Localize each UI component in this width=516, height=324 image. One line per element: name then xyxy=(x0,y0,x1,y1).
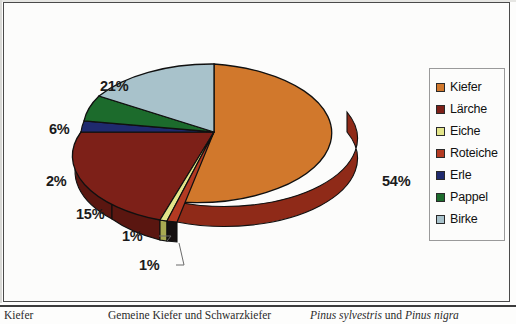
page-root: 54% 21% 6% 2% 15% 1% 1% Kiefer Lärche Ei… xyxy=(0,0,516,324)
pie-label-birke: 21% xyxy=(100,78,128,94)
legend-swatch-kiefer xyxy=(436,83,445,92)
legend-swatch-eiche xyxy=(436,127,445,136)
pie-label-erle: 2% xyxy=(46,173,67,189)
caption-row: Kiefer Gemeine Kiefer und Schwarzkiefer … xyxy=(0,309,516,324)
chart-frame: 54% 21% 6% 2% 15% 1% 1% Kiefer Lärche Ei… xyxy=(3,2,510,302)
pie-chart: 54% 21% 6% 2% 15% 1% 1% xyxy=(4,3,424,301)
caption-latin-a: Pinus sylvestris xyxy=(310,309,382,321)
legend-item-kiefer[interactable]: Kiefer xyxy=(436,76,500,98)
legend-label-laerche: Lärche xyxy=(450,102,487,116)
caption-latin-b: Pinus nigra xyxy=(405,309,459,321)
chart-legend: Kiefer Lärche Eiche Roteiche Erle Pappel xyxy=(429,68,505,241)
legend-swatch-erle xyxy=(436,171,445,180)
caption-species-name: Kiefer xyxy=(4,309,33,321)
caption-latin-name: Pinus sylvestris und Pinus nigra xyxy=(310,309,459,321)
legend-label-kiefer: Kiefer xyxy=(450,80,481,94)
pie-label-roteiche: 1% xyxy=(139,257,160,273)
leader-line-roteiche xyxy=(176,243,184,265)
pie-chart-svg xyxy=(4,3,424,301)
caption-divider xyxy=(0,305,516,307)
legend-label-eiche: Eiche xyxy=(450,124,480,138)
legend-swatch-pappel xyxy=(436,193,445,202)
caption-common-name: Gemeine Kiefer und Schwarzkiefer xyxy=(108,309,271,321)
pie-label-eiche: 1% xyxy=(122,228,143,244)
legend-label-birke: Birke xyxy=(450,212,477,226)
legend-label-roteiche: Roteiche xyxy=(450,146,498,160)
legend-item-erle[interactable]: Erle xyxy=(436,164,500,186)
pie-label-laerche: 15% xyxy=(76,206,104,222)
scan-edge-left xyxy=(0,0,2,303)
legend-item-eiche[interactable]: Eiche xyxy=(436,120,500,142)
legend-swatch-laerche xyxy=(436,105,445,114)
legend-item-roteiche[interactable]: Roteiche xyxy=(436,142,500,164)
legend-label-pappel: Pappel xyxy=(450,190,488,204)
pie-side-eiche xyxy=(160,220,167,241)
legend-item-pappel[interactable]: Pappel xyxy=(436,186,500,208)
pie-label-kiefer: 54% xyxy=(382,173,410,189)
pie-label-pappel: 6% xyxy=(49,121,70,137)
legend-swatch-birke xyxy=(436,215,445,224)
legend-label-erle: Erle xyxy=(450,168,471,182)
caption-latin-conjunction: und xyxy=(385,309,402,321)
legend-item-birke[interactable]: Birke xyxy=(436,208,500,230)
legend-swatch-roteiche xyxy=(436,149,445,158)
legend-item-laerche[interactable]: Lärche xyxy=(436,98,500,120)
